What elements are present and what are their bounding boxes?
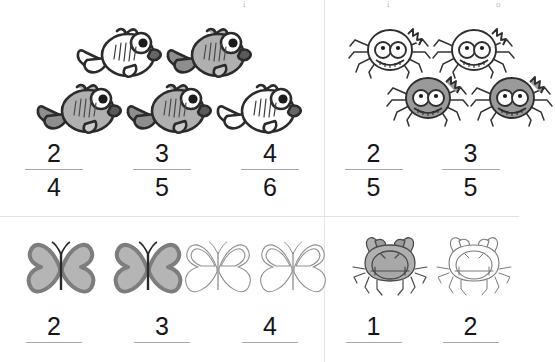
fraction-bar xyxy=(345,169,403,170)
fraction-numerator: 1 xyxy=(325,313,422,339)
fraction-option[interactable]: 4 6 xyxy=(216,140,324,200)
fraction-option[interactable]: 3 5 xyxy=(422,140,519,200)
fraction-bar xyxy=(26,342,82,343)
fish-figure xyxy=(163,22,255,84)
fish-figure xyxy=(213,78,305,140)
fraction-bar xyxy=(134,342,190,343)
fraction-option[interactable]: 2 xyxy=(422,313,519,347)
fraction-bar xyxy=(242,342,298,343)
butterfly-fraction-row: 2 3 4 xyxy=(0,313,324,347)
fish-illustration-area xyxy=(0,0,324,140)
butterfly-illustration-area xyxy=(0,217,324,313)
fraction-numerator: 2 xyxy=(0,313,108,339)
crab-figure xyxy=(351,231,429,305)
butterfly-figure xyxy=(110,236,186,304)
fraction-denominator: 6 xyxy=(216,174,324,200)
quadrant-fish: 2 4 3 5 4 6 xyxy=(0,0,324,216)
fish-fraction-row: 2 4 3 5 4 6 xyxy=(0,140,324,200)
fraction-bar xyxy=(442,169,500,170)
butterfly-figure xyxy=(23,236,99,304)
fraction-option[interactable]: 2 5 xyxy=(325,140,422,200)
fish-figure xyxy=(33,78,125,140)
fish-figure xyxy=(123,78,215,140)
fraction-option[interactable]: 3 xyxy=(108,313,216,347)
fraction-numerator: 3 xyxy=(108,313,216,339)
fraction-numerator: 2 xyxy=(325,140,422,166)
quadrant-crab: 1 2 xyxy=(325,217,519,362)
fraction-denominator: 5 xyxy=(422,174,519,200)
fraction-bar xyxy=(443,342,499,343)
crab-illustration-area xyxy=(325,217,519,313)
fraction-option[interactable]: 4 xyxy=(216,313,324,347)
butterfly-figure xyxy=(180,236,256,304)
fraction-numerator: 4 xyxy=(216,140,324,166)
butterfly-figure xyxy=(255,236,331,304)
fraction-bar xyxy=(241,169,299,170)
fraction-denominator: 4 xyxy=(0,174,108,200)
fraction-option[interactable]: 2 xyxy=(0,313,108,347)
fraction-numerator: 2 xyxy=(0,140,108,166)
spider-figure xyxy=(385,68,471,134)
fraction-bar xyxy=(133,169,191,170)
spider-illustration-area xyxy=(325,0,519,140)
fraction-numerator: 3 xyxy=(108,140,216,166)
fraction-numerator: 4 xyxy=(216,313,324,339)
fraction-option[interactable]: 1 xyxy=(325,313,422,347)
fish-figure xyxy=(73,22,165,84)
fraction-bar xyxy=(346,342,402,343)
fraction-option[interactable]: 3 5 xyxy=(108,140,216,200)
fraction-numerator: 3 xyxy=(422,140,519,166)
spider-figure xyxy=(469,68,555,134)
spider-fraction-row: 2 5 3 5 xyxy=(325,140,519,200)
fraction-numerator: 2 xyxy=(422,313,519,339)
crab-figure xyxy=(435,231,513,305)
fraction-option[interactable]: 2 4 xyxy=(0,140,108,200)
crab-fraction-row: 1 2 xyxy=(325,313,519,347)
fraction-bar xyxy=(25,169,83,170)
quadrant-butterfly: 2 3 4 xyxy=(0,217,324,362)
fraction-denominator: 5 xyxy=(325,174,422,200)
fraction-denominator: 5 xyxy=(108,174,216,200)
quadrant-spider: 2 5 3 5 xyxy=(325,0,519,216)
